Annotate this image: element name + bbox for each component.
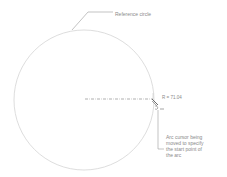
reference-circle-leader	[72, 12, 113, 30]
arc-note-leader	[158, 110, 164, 149]
reference-circle	[14, 30, 154, 170]
reference-circle-label: Reference circle	[115, 11, 151, 17]
arc-note-line: the arc	[166, 152, 204, 158]
radius-readout: R = 71.04	[162, 95, 182, 101]
arc-cursor-note: Arc cursor being moved to specify the st…	[166, 134, 204, 158]
